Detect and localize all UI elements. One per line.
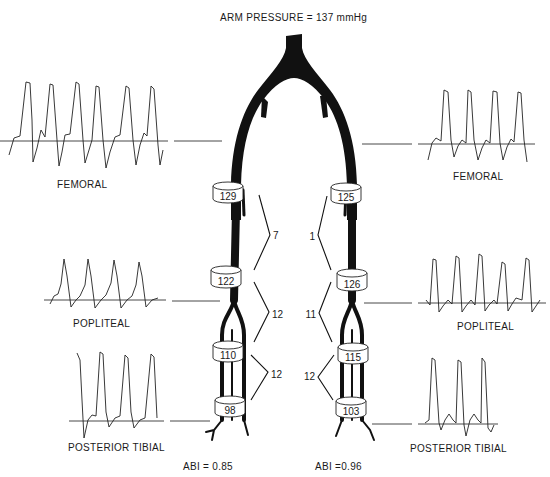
arterial-diagram: 129 122 110 98 125 126 115 103 7 12 12 1… — [0, 0, 550, 477]
gradient-right-1: 1 — [309, 231, 315, 242]
arm-pressure-title: ARM PRESSURE = 137 mmHg — [220, 12, 367, 23]
gradient-left-3: 12 — [271, 369, 283, 380]
label-right-posterior-tibial: POSTERIOR TIBIAL — [410, 443, 507, 454]
waveform-left-femoral — [9, 82, 163, 168]
waveform-left-posterior-tibial — [77, 352, 157, 438]
label-left-posterior-tibial: POSTERIOR TIBIAL — [68, 442, 165, 453]
pressure-right-4: 103 — [343, 406, 360, 417]
label-left-femoral: FEMORAL — [57, 179, 107, 190]
pressure-right-2: 126 — [344, 279, 361, 290]
abi-right: ABI =0.96 — [315, 461, 362, 472]
label-right-femoral: FEMORAL — [453, 171, 503, 182]
label-right-popliteal: POPLITEAL — [457, 321, 514, 332]
abi-left: ABI = 0.85 — [183, 461, 233, 472]
pressure-right-1: 125 — [338, 192, 355, 203]
gradient-left-1: 7 — [273, 230, 279, 241]
gradient-brackets — [251, 195, 334, 400]
pressure-left-2: 122 — [218, 276, 235, 287]
gradient-right-3: 12 — [304, 371, 316, 382]
pressure-left-1: 129 — [220, 191, 237, 202]
pressure-left-3: 110 — [220, 350, 236, 361]
pressure-right-3: 115 — [345, 352, 361, 363]
label-left-popliteal: POPLITEAL — [73, 318, 130, 329]
waveform-left-popliteal — [50, 259, 158, 308]
waveform-right-femoral — [428, 90, 527, 162]
waveforms — [9, 82, 540, 438]
gradient-left-2: 12 — [272, 309, 284, 320]
gradient-right-2: 11 — [306, 309, 317, 320]
pressure-left-4: 98 — [224, 405, 236, 416]
